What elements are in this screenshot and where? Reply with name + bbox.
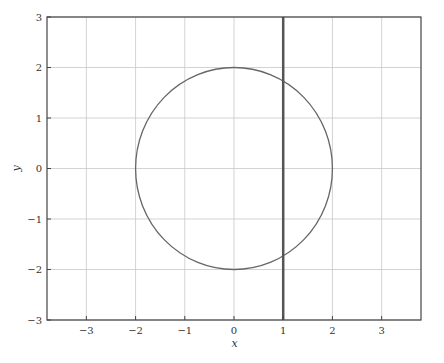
chart: −3−2−10123−3−2−10123 x y [0,0,444,363]
y-tick-label: 2 [36,62,42,73]
x-tick-label: −1 [177,325,192,336]
y-tick-label: −1 [27,214,42,225]
y-tick-label: 3 [36,12,42,23]
y-tick-label: 0 [36,163,42,174]
x-tick-label: 1 [280,325,286,336]
y-tick-label: 1 [36,113,42,124]
x-tick-label: −2 [128,325,143,336]
y-axis-label: y [10,165,23,173]
x-tick-label: 0 [231,325,237,336]
y-tick-label: −2 [27,264,42,275]
axis-ticks: −3−2−10123−3−2−10123 [27,12,385,337]
grid-lines [47,17,421,320]
y-tick-label: −3 [27,315,42,326]
x-tick-label: 3 [378,325,384,336]
x-tick-label: −3 [79,325,94,336]
x-axis-label: x [231,337,238,350]
x-tick-label: 2 [329,325,335,336]
